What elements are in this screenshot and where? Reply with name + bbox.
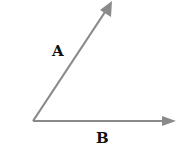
vector-a-label: A [51, 42, 64, 60]
vector-a-arrowhead-icon [100, 1, 112, 17]
vector-diagram: A B [0, 0, 184, 152]
vector-a-shaft [33, 9, 107, 121]
vector-b-label: B [96, 129, 109, 147]
vector-b-arrowhead-icon [162, 116, 176, 126]
vector-a [33, 1, 112, 121]
vector-b [33, 116, 176, 126]
